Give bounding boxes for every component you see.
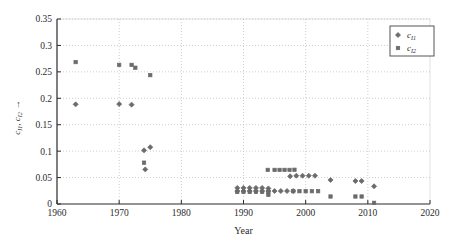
data-point-square (242, 190, 245, 193)
data-point-diamond (143, 167, 148, 172)
data-point-square (278, 168, 281, 171)
x-axis-tick-label: 2010 (358, 208, 377, 218)
data-point-square (267, 193, 270, 196)
legend-marker-square (396, 46, 399, 49)
data-point-diamond (148, 145, 153, 150)
data-point-diamond (288, 174, 293, 179)
series-c-i1 (73, 102, 376, 194)
y-axis-tick-label: 0.15 (35, 120, 52, 130)
data-point-diamond (285, 189, 290, 194)
data-point-square (273, 168, 276, 171)
data-point-diamond (328, 177, 333, 182)
data-point-diamond (129, 102, 134, 107)
data-point-diamond (372, 184, 377, 189)
data-point-square (260, 190, 263, 193)
data-point-square (354, 195, 357, 198)
data-point-square (372, 201, 375, 204)
data-point-diamond (312, 173, 317, 178)
legend: cI1cI2 (390, 26, 434, 56)
data-point-square (283, 168, 286, 171)
x-axis-tick-label: 1970 (110, 208, 129, 218)
chart-canvas: 00.050.10.150.20.250.30.3519601970198019… (0, 0, 457, 247)
scatter-chart-figure: 00.050.10.150.20.250.30.3519601970198019… (0, 0, 457, 247)
data-point-diamond (353, 179, 358, 184)
data-point-square (298, 190, 301, 193)
y-axis-tick-label: 0.2 (40, 94, 52, 104)
data-point-square (310, 190, 313, 193)
data-point-square (74, 60, 77, 63)
x-axis-tick-label: 1990 (234, 208, 253, 218)
data-point-square (248, 190, 251, 193)
data-point-square (134, 66, 137, 69)
data-point-diamond (272, 189, 277, 194)
y-axis-tick-label: 0.05 (35, 173, 52, 183)
data-point-square (142, 161, 145, 164)
data-point-diamond (73, 102, 78, 107)
y-axis-title: cI1, cI2→ (12, 100, 23, 135)
x-axis-tick-label: 1980 (172, 208, 191, 218)
data-point-square (316, 190, 319, 193)
x-axis-title: Year (234, 225, 253, 236)
data-point-diamond (278, 189, 283, 194)
data-point-square (288, 168, 291, 171)
data-point-square (329, 195, 332, 198)
y-axis-tick-label: 0.1 (40, 147, 52, 157)
data-point-diamond (142, 148, 147, 153)
data-point-square (236, 190, 239, 193)
data-point-square (117, 63, 120, 66)
data-point-square (266, 168, 269, 171)
data-point-square (360, 195, 363, 198)
x-axis-tick-label: 2000 (296, 208, 315, 218)
y-axis-tick-label: 0.35 (35, 14, 52, 24)
data-point-diamond (306, 173, 311, 178)
data-point-square (130, 63, 133, 66)
data-point-square (292, 190, 295, 193)
data-point-square (254, 190, 257, 193)
data-point-square (304, 190, 307, 193)
svg-text:cI1, cI2→: cI1, cI2→ (12, 100, 23, 135)
data-point-square (293, 168, 296, 171)
x-axis-tick-label: 1960 (48, 208, 67, 218)
y-axis-tick-label: 0.3 (40, 41, 52, 51)
y-axis-tick-label: 0.25 (35, 67, 52, 77)
x-axis-tick-label: 2020 (421, 208, 440, 218)
data-point-diamond (117, 102, 122, 107)
data-point-diamond (359, 179, 364, 184)
data-point-square (149, 73, 152, 76)
